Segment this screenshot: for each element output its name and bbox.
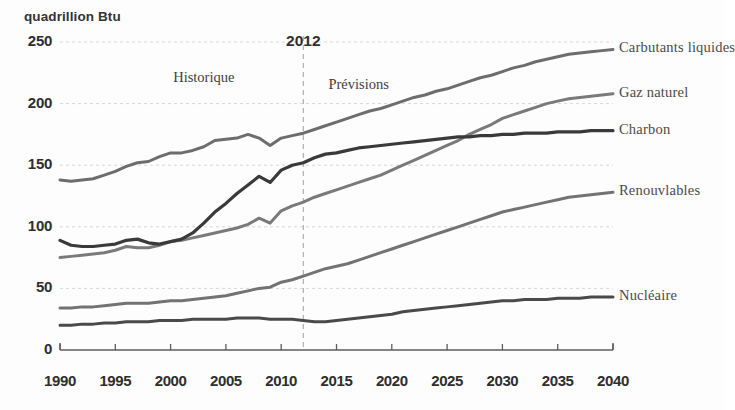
x-axis-tick-label: 1990 — [37, 372, 83, 389]
y-axis-tick-label: 250 — [12, 32, 52, 49]
series-label-renouvlables: Renouvlables — [619, 182, 700, 199]
projection-region: Prévisions — [328, 76, 388, 93]
x-axis-tick-label: 2030 — [479, 372, 525, 389]
x-axis-tick-label: 2010 — [258, 372, 304, 389]
divider-year: 2012 — [286, 32, 320, 50]
x-axis-tick-label: 2040 — [590, 372, 636, 389]
series-line-nucl-aire — [60, 297, 613, 325]
y-axis-tick-label: 50 — [12, 278, 52, 295]
series-label-carburants-liquides: Carbutants liquides — [619, 39, 735, 56]
historical-region: Historique — [173, 69, 234, 86]
series-label-gaz-naturel: Gaz naturel — [619, 84, 688, 101]
x-axis-tick-label: 2015 — [314, 372, 360, 389]
y-axis-tick-label: 200 — [12, 94, 52, 111]
y-axis-tick-label: 150 — [12, 155, 52, 172]
x-axis-tick-label: 2035 — [535, 372, 581, 389]
x-axis-tick-label: 1995 — [92, 372, 138, 389]
series-label-nucl-aire: Nucléaire — [619, 287, 677, 304]
x-axis-tick-label: 2025 — [424, 372, 470, 389]
series-label-charbon: Charbon — [619, 121, 670, 138]
series-line-gaz-naturel — [60, 94, 613, 258]
series-line-renouvlables — [60, 192, 613, 308]
series-line-carburants-liquides — [60, 49, 613, 181]
x-axis-tick-label: 2000 — [148, 372, 194, 389]
x-axis-tick-label: 2020 — [369, 372, 415, 389]
y-axis-tick-label: 100 — [12, 217, 52, 234]
y-axis-tick-label: 0 — [12, 340, 52, 357]
x-axis-tick-label: 2005 — [203, 372, 249, 389]
